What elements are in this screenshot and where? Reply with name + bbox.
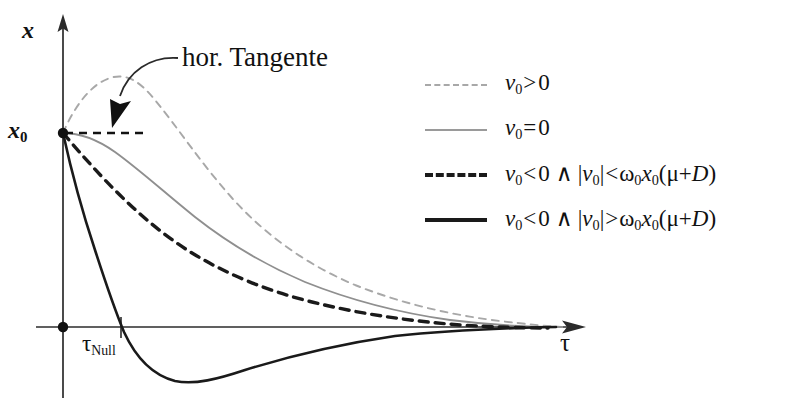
- axis-origin-dot: [58, 322, 68, 332]
- legend-row-v0-negative-weak: v0<0∧|v0|<ω0x0(μ+D): [425, 152, 780, 197]
- legend-swatch-gray-solid-icon: [425, 123, 487, 137]
- legend-2-op: <: [522, 161, 537, 186]
- legend-3-cmp: >: [604, 206, 619, 231]
- legend-swatch-gray-dashed-icon: [425, 78, 487, 92]
- legend-2-v: v: [505, 161, 515, 186]
- legend-label-v0-negative-weak: v0<0∧|v0|<ω0x0(μ+D): [505, 160, 716, 189]
- legend-2-paren-close: ): [708, 161, 716, 186]
- legend-0-v: v: [505, 70, 515, 95]
- legend-2-omega: ω: [619, 161, 634, 186]
- legend-2-D: D: [692, 161, 709, 186]
- legend-3-wedge: ∧: [551, 206, 578, 231]
- legend-2-mu: μ: [667, 161, 679, 186]
- legend-2-x: x: [641, 161, 651, 186]
- legend-3-op: <: [522, 206, 537, 231]
- y-axis-label: x: [22, 18, 34, 42]
- legend-2-wedge: ∧: [551, 161, 578, 186]
- legend-3-abs-vsub: 0: [593, 217, 600, 233]
- legend-3-abs-v: v: [582, 206, 592, 231]
- legend: v0>0 v0=0 v0<0∧|v0|<ω0x0(μ+D) v0<0∧|v0|>…: [425, 62, 780, 242]
- legend-swatch-black-dashed-icon: [425, 168, 487, 182]
- legend-row-v0-positive: v0>0: [425, 62, 780, 107]
- legend-1-rhs: 0: [537, 115, 551, 140]
- legend-2-rhs: 0: [537, 161, 551, 186]
- legend-2-abs-v: v: [582, 161, 592, 186]
- legend-3-D: D: [692, 206, 709, 231]
- tau-null-base: τ: [82, 331, 91, 356]
- tau-null-subscript: Null: [91, 343, 116, 358]
- annotation-label: hor. Tangente: [182, 44, 328, 71]
- legend-3-plus: +: [679, 206, 692, 231]
- x0-label-base: x: [8, 117, 20, 143]
- figure-container: x x0 τ τNull hor. Tangente v0>0 v0=0 v0<…: [0, 0, 785, 418]
- legend-0-rhs: 0: [537, 70, 551, 95]
- legend-3-mu: μ: [667, 206, 679, 231]
- x0-label: x0: [8, 118, 27, 145]
- legend-2-paren-open: (: [659, 161, 667, 186]
- legend-0-op: >: [522, 70, 537, 95]
- annotation-arrow-head: [110, 99, 131, 128]
- legend-3-x: x: [641, 206, 651, 231]
- legend-label-v0-positive: v0>0: [505, 70, 551, 98]
- legend-1-op: =: [522, 115, 537, 140]
- legend-row-v0-negative-strong: v0<0∧|v0|>ω0x0(μ+D): [425, 197, 780, 242]
- legend-2-xsub: 0: [652, 172, 659, 188]
- legend-label-v0-negative-strong: v0<0∧|v0|>ω0x0(μ+D): [505, 205, 716, 234]
- x0-origin-dot: [58, 128, 68, 138]
- x0-label-subscript: 0: [20, 129, 27, 145]
- legend-3-rhs: 0: [537, 206, 551, 231]
- legend-3-v: v: [505, 206, 515, 231]
- legend-row-v0-zero: v0=0: [425, 107, 780, 152]
- x-axis-label: τ: [560, 330, 570, 355]
- legend-2-plus: +: [679, 161, 692, 186]
- legend-1-v: v: [505, 115, 515, 140]
- annotation-arrow-shaft: [120, 58, 178, 96]
- legend-2-abs-vsub: 0: [593, 172, 600, 188]
- legend-2-cmp: <: [604, 161, 619, 186]
- legend-swatch-black-solid-icon: [425, 213, 487, 227]
- legend-3-paren-close: ): [708, 206, 716, 231]
- tau-null-label: τNull: [82, 332, 116, 358]
- legend-3-paren-open: (: [659, 206, 667, 231]
- legend-3-omega: ω: [619, 206, 634, 231]
- legend-3-xsub: 0: [652, 217, 659, 233]
- legend-label-v0-zero: v0=0: [505, 115, 551, 143]
